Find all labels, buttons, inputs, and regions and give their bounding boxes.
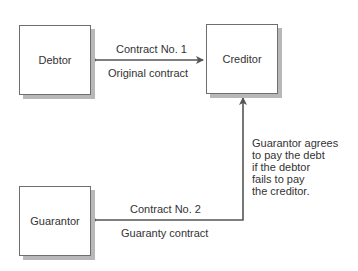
debtor-node: Debtor [19,25,91,95]
annotation-line: fails to pay [252,173,338,185]
contract1-title: Contract No. 1 [116,43,187,55]
annotation-line: to pay the debt [252,149,338,161]
contract2-title: Contract No. 2 [130,203,201,215]
annotation-line: if the debtor [252,161,338,173]
guarantor-label: Guarantor [30,215,80,227]
debtor-label: Debtor [38,54,71,66]
annotation-line: Guarantor agrees [252,137,338,149]
guarantor-node: Guarantor [19,186,91,256]
contract1-subtitle: Original contract [108,67,188,79]
guarantor-annotation: Guarantor agrees to pay the debt if the … [252,137,338,197]
contract2-arrow [97,98,243,220]
contract2-subtitle: Guaranty contract [121,227,208,239]
creditor-node: Creditor [206,24,278,94]
annotation-line: the creditor. [252,185,338,197]
creditor-label: Creditor [222,53,261,65]
